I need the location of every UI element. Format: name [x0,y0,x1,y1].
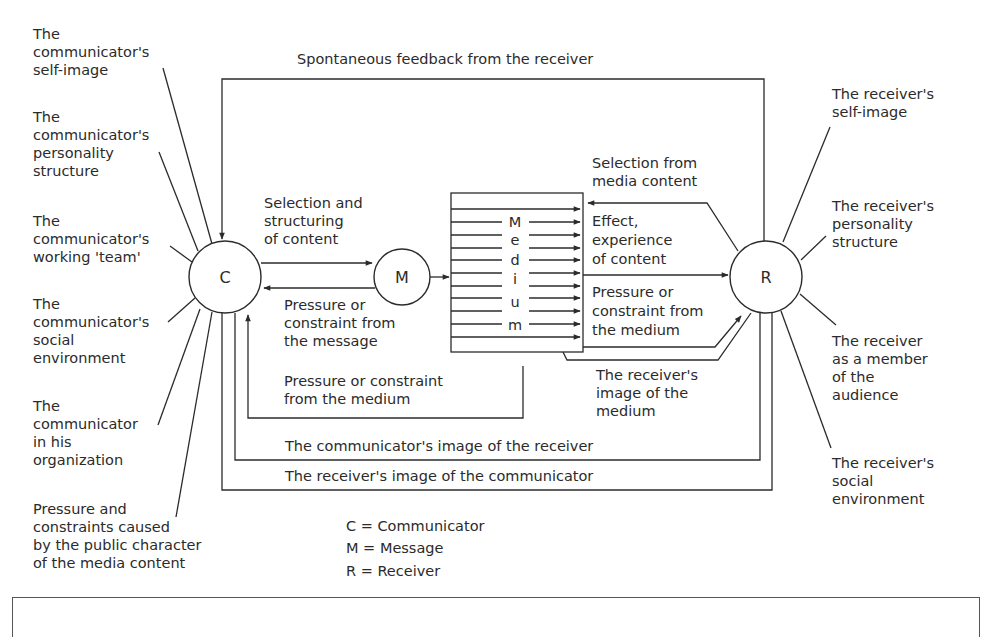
message-node: M [374,249,430,305]
svg-text:Thecommunicator'sworking 'team: Thecommunicator'sworking 'team' [32,213,149,265]
svg-text:The receiver'spersonalitystruc: The receiver'spersonalitystructure [831,198,934,250]
medium-letter: m [508,317,522,333]
svg-text:Thecommunicator'spersonalityst: Thecommunicator'spersonalitystructure [32,109,149,179]
svg-text:The receiveras a memberof thea: The receiveras a memberof theaudience [831,333,928,403]
svg-text:The receiver'sself-image: The receiver'sself-image [831,86,934,120]
communicator-factor-organization: Thecommunicatorin hisorganization [32,398,138,468]
communicator-factor-working-team: Thecommunicator'sworking 'team' [32,213,149,265]
medium-letter: M [509,214,522,230]
medium-letter: d [510,252,519,268]
legend-message: M = Message [346,540,444,556]
pressure-message-label: Pressure orconstraint fromthe message [284,297,395,349]
medium-letter: u [510,294,519,310]
communicator-factor-public-character: Pressure andconstraints causedby the pub… [33,501,202,571]
receiver-factor-self-image: The receiver'sself-image [831,86,934,120]
selection-structuring-label: Selection andstructuringof content [264,195,363,247]
effect-experience-label: Effect,experienceof content [592,213,672,267]
feedback-label: Spontaneous feedback from the receiver [297,51,593,67]
receiver-factor-social-environment: The receiver'ssocialenvironment [831,455,934,507]
medium-box: M e d i u m [451,193,583,352]
legend-receiver: R = Receiver [346,563,440,579]
receiver-node: R [730,241,802,313]
svg-text:The receiver'ssocialenvironmen: The receiver'ssocialenvironment [831,455,934,507]
communicator-factor-self-image: Thecommunicator'sself-image [32,26,149,78]
receiver-image-communicator-label: The receiver's image of the communicator [284,468,593,484]
medium-letter: i [513,271,517,287]
svg-text:Pressure andconstraints caused: Pressure andconstraints causedby the pub… [33,501,202,571]
selection-media-label: Selection frommedia content [592,155,698,189]
receiver-image-medium-label: The receiver'simage of themedium [595,367,698,419]
legend: C = Communicator M = Message R = Receive… [346,518,485,579]
svg-text:Thecommunicator'ssocialenviron: Thecommunicator'ssocialenvironment [32,296,149,366]
caption-box [12,597,980,637]
communicator-image-receiver-label: The communicator's image of the receiver [284,438,593,454]
communicator-factor-personality: Thecommunicator'spersonalitystructure [32,109,149,179]
communicator-node: C [189,241,261,313]
receiver-factor-personality: The receiver'spersonalitystructure [831,198,934,250]
medium-letter: e [511,232,520,248]
svg-text:Thecommunicatorin hisorganizat: Thecommunicatorin hisorganization [32,398,138,468]
legend-communicator: C = Communicator [346,518,485,534]
pressure-medium-receiver-label: Pressure orconstraint fromthe medium [592,284,703,338]
svg-text:C: C [219,268,230,287]
receiver-factor-audience-member: The receiveras a memberof theaudience [831,333,928,403]
svg-text:M: M [395,268,409,287]
svg-text:Thecommunicator'sself-image: Thecommunicator'sself-image [32,26,149,78]
communicator-factor-social-environment: Thecommunicator'ssocialenvironment [32,296,149,366]
pressure-medium-communicator-label: Pressure or constraintfrom the medium [284,373,443,407]
svg-text:R: R [760,268,771,287]
